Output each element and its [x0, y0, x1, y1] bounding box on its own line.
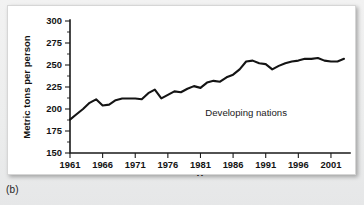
- x-axis-title: Year: [197, 172, 218, 176]
- x-tick-label: 2001: [321, 159, 342, 170]
- chart-plot-area: 150175200225250275300 196119661971197619…: [8, 6, 355, 174]
- y-axis-title: Metric tons per person: [21, 35, 32, 139]
- y-tick-label: 150: [46, 147, 62, 158]
- y-tick-label: 300: [46, 15, 62, 26]
- series-annotation: Developing nations: [205, 107, 287, 118]
- x-tick-label: 1971: [125, 159, 146, 170]
- figure-card: 150175200225250275300 196119661971197619…: [7, 5, 356, 175]
- y-tick-label: 225: [46, 81, 62, 92]
- figure-background: 150175200225250275300 196119661971197619…: [0, 0, 364, 205]
- y-tick-label: 250: [46, 59, 62, 70]
- x-axis-tick-labels: 196119661971197619811986199119962001: [60, 159, 342, 170]
- y-tick-label: 275: [46, 37, 62, 48]
- axis-lines: [70, 20, 350, 153]
- y-tick-label: 200: [46, 103, 62, 114]
- line-chart: 150175200225250275300 196119661971197619…: [8, 6, 357, 176]
- y-axis-tick-labels: 150175200225250275300: [46, 15, 62, 158]
- x-tick-label: 1981: [190, 159, 211, 170]
- x-tick-label: 1966: [92, 159, 113, 170]
- x-tick-label: 1961: [60, 159, 81, 170]
- x-tick-label: 1996: [288, 159, 309, 170]
- x-tick-label: 1976: [157, 159, 178, 170]
- figure-caption: (b): [6, 184, 19, 195]
- x-tick-label: 1986: [223, 159, 244, 170]
- y-tick-label: 175: [46, 125, 62, 136]
- x-tick-label: 1991: [255, 159, 276, 170]
